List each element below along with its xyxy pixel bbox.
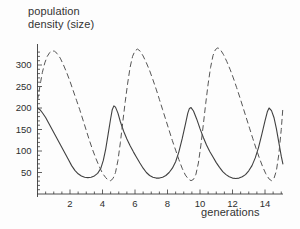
x-tick-label: 4 <box>95 198 111 209</box>
x-tick-label: 6 <box>127 198 143 209</box>
x-tick-label: 10 <box>192 198 208 209</box>
x-tick-label: 8 <box>160 198 176 209</box>
y-axis-major-ticks <box>38 65 43 173</box>
y-tick-label: 300 <box>8 59 32 70</box>
series-line-predator <box>38 48 283 181</box>
y-tick-label: 150 <box>8 124 32 135</box>
chart-figure: population density (size) generations 50… <box>0 0 300 229</box>
y-tick-label: 50 <box>8 167 32 178</box>
x-tick-label: 12 <box>225 198 241 209</box>
y-tick-label: 250 <box>8 81 32 92</box>
y-tick-label: 100 <box>8 145 32 156</box>
x-tick-label: 2 <box>62 198 78 209</box>
x-tick-label: 14 <box>257 198 273 209</box>
y-tick-label: 200 <box>8 102 32 113</box>
data-series-layer <box>38 48 283 181</box>
plot-area <box>0 0 300 229</box>
x-axis-major-ticks <box>70 190 265 195</box>
series-line-prey <box>38 106 283 179</box>
